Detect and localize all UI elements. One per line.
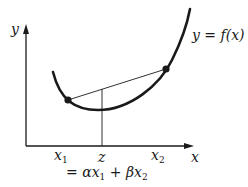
z-formula-prefix: = αx: [66, 164, 100, 180]
x2-label: x2: [151, 148, 165, 165]
point-x1-dot: [64, 96, 71, 103]
z-formula: = αx1 + βx2: [66, 165, 148, 182]
curve-label: y = f(x): [192, 28, 245, 42]
z-formula-sub2: 2: [142, 172, 148, 182]
x1-label-base: x: [54, 147, 62, 163]
function-curve: [53, 9, 190, 110]
x-axis-label: x: [191, 150, 199, 164]
point-x2-dot: [162, 65, 169, 72]
z-label: z: [98, 150, 105, 164]
y-axis-label: y: [11, 22, 19, 36]
x1-label: x1: [54, 148, 68, 165]
x2-label-base: x: [151, 147, 159, 163]
y-axis-arrow-icon: [23, 24, 29, 34]
z-formula-mid: + βx: [105, 164, 142, 180]
chord-line: [68, 69, 166, 100]
x2-label-sub: 2: [159, 155, 165, 165]
